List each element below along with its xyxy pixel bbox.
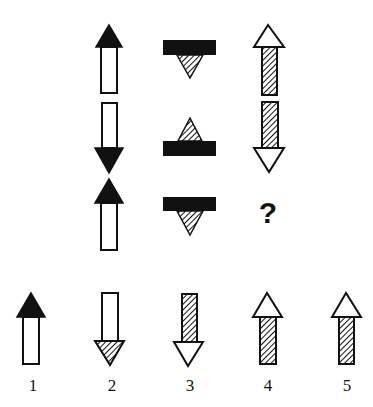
grid-cell-r3c2-bar-triangle-down <box>163 197 216 235</box>
puzzle-canvas: ? 1 2 3 4 5 <box>0 0 373 407</box>
grid-cell-r1c3-arrow-up <box>254 25 284 95</box>
question-mark: ? <box>259 196 277 229</box>
option-5-label: 5 <box>343 376 352 395</box>
grid-cell-r1c2-bar-triangle-down <box>163 40 216 78</box>
option-3-arrow[interactable] <box>174 294 203 366</box>
option-5-arrow[interactable] <box>332 293 361 364</box>
grid-cell-r2c3-arrow-down <box>254 102 284 172</box>
grid-cell-r3c1-arrow-up <box>95 179 123 250</box>
option-1-arrow[interactable] <box>17 293 45 364</box>
option-2-label: 2 <box>108 376 117 395</box>
option-3-label: 3 <box>186 376 195 395</box>
grid-cell-r2c1-arrow-down <box>95 103 123 173</box>
option-4-label: 4 <box>264 376 273 395</box>
option-2-arrow[interactable] <box>95 293 124 365</box>
grid-cell-r2c2-bar-triangle-up <box>163 118 216 156</box>
option-1-label: 1 <box>29 376 38 395</box>
grid-cell-r1c1-arrow-up <box>96 25 122 93</box>
option-4-arrow[interactable] <box>253 293 282 364</box>
